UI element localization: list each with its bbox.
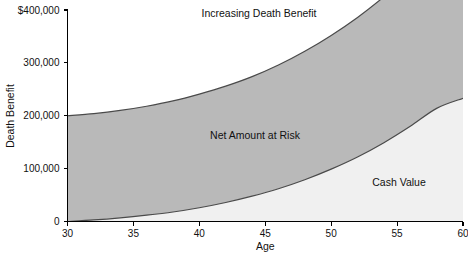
x-tick-label-30: 30 xyxy=(62,228,74,239)
y-tick-label-400000: $400,000 xyxy=(18,5,60,16)
y-axis-title: Death Benefit xyxy=(4,84,16,148)
x-axis-title: Age xyxy=(256,240,275,252)
annotation-cash-value: Cash Value xyxy=(372,176,426,188)
x-tick-label-45: 45 xyxy=(260,228,272,239)
y-tick-label-200000: 200,000 xyxy=(23,110,60,121)
x-tick-label-50: 50 xyxy=(326,228,338,239)
y-axis-tick-labels: 0100,000200,000300,000$400,000 xyxy=(18,5,60,228)
y-tick-label-0: 0 xyxy=(54,216,60,227)
y-axis-tick-marks xyxy=(64,10,68,222)
annotation-net-amount-at-risk: Net Amount at Risk xyxy=(210,129,301,141)
x-axis-tick-labels: 30354045505560 xyxy=(62,228,468,239)
x-tick-label-55: 55 xyxy=(392,228,404,239)
x-tick-label-60: 60 xyxy=(457,228,468,239)
death-benefit-area-chart: 0100,000200,000300,000$400,000 303540455… xyxy=(0,0,468,254)
chart-container: 0100,000200,000300,000$400,000 303540455… xyxy=(0,0,468,254)
y-tick-label-300000: 300,000 xyxy=(23,57,60,68)
x-tick-label-40: 40 xyxy=(194,228,206,239)
x-axis-tick-marks xyxy=(68,222,464,226)
y-tick-label-100000: 100,000 xyxy=(23,163,60,174)
annotation-increasing-death-benefit: Increasing Death Benefit xyxy=(202,7,317,19)
x-tick-label-35: 35 xyxy=(128,228,140,239)
